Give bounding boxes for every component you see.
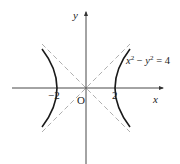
y-axis-label: y [72,9,78,21]
hyperbola-diagram: y x O −2 2 x2 − y2 = 4 [0,0,180,164]
equation-label: x2 − y2 = 4 [125,54,171,66]
origin-label: O [77,94,85,106]
tick-label-neg-2: −2 [48,89,60,101]
x-axis-label: x [152,93,158,105]
tick-label-2: 2 [112,89,118,101]
